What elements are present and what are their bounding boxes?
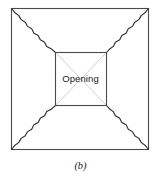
- crack-bottom-left-icon: [12, 106, 56, 150]
- figure-container: Opening (b): [0, 0, 161, 176]
- crack-bottom-right-icon: [107, 106, 149, 150]
- crack-top-right-icon: [107, 9, 149, 53]
- figure-caption: (b): [0, 159, 161, 172]
- crack-top-left-icon: [12, 9, 56, 53]
- opening-label: Opening: [0, 73, 161, 84]
